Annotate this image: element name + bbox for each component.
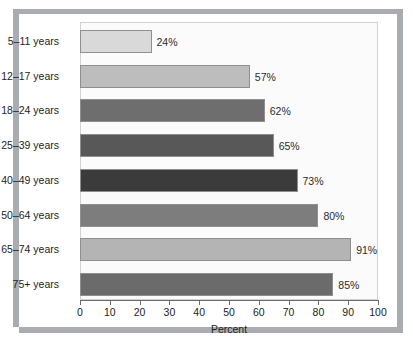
bar xyxy=(80,238,351,261)
category-label: 40–49 years xyxy=(1,169,59,192)
x-tick-label: 20 xyxy=(134,306,146,318)
bar-row: 57% xyxy=(80,65,378,88)
bar-row: 24% xyxy=(80,30,378,53)
bar-value-label: 73% xyxy=(298,175,324,187)
bar-value-label: 24% xyxy=(152,36,178,48)
bar-row: 91% xyxy=(80,238,378,261)
frame-shadow-right xyxy=(397,14,403,332)
x-tick-label: 90 xyxy=(342,306,354,318)
bar xyxy=(80,99,265,122)
x-tick-mark xyxy=(348,300,349,305)
bar xyxy=(80,30,152,53)
bar xyxy=(80,134,274,157)
x-tick-mark xyxy=(199,300,200,305)
x-tick-label: 40 xyxy=(193,306,205,318)
x-tick-mark xyxy=(229,300,230,305)
category-label: 65–74 years xyxy=(1,238,59,261)
bar xyxy=(80,204,318,227)
x-tick-label: 0 xyxy=(77,306,83,318)
bar xyxy=(80,65,250,88)
x-tick-label: 70 xyxy=(283,306,295,318)
category-label: 12–17 years xyxy=(1,65,59,88)
category-label: 50–64 years xyxy=(1,204,59,227)
x-tick-mark xyxy=(140,300,141,305)
bar-value-label: 57% xyxy=(250,71,276,83)
bar-row: 62% xyxy=(80,99,378,122)
bar-row: 65% xyxy=(80,134,378,157)
bar-value-label: 91% xyxy=(351,244,377,256)
x-tick-mark xyxy=(259,300,260,305)
x-tick-label: 10 xyxy=(104,306,116,318)
x-tick-label: 50 xyxy=(223,306,235,318)
x-tick-label: 60 xyxy=(253,306,265,318)
x-tick-label: 80 xyxy=(313,306,325,318)
bar-row: 73% xyxy=(80,169,378,192)
bar-value-label: 85% xyxy=(333,279,359,291)
x-tick-mark xyxy=(80,300,81,305)
x-tick-mark xyxy=(289,300,290,305)
x-tick-label: 100 xyxy=(369,306,387,318)
bar-row: 80% xyxy=(80,204,378,227)
x-tick-mark xyxy=(169,300,170,305)
category-label: 18–24 years xyxy=(1,99,59,122)
category-label: 75+ years xyxy=(13,273,59,296)
x-tick-mark xyxy=(318,300,319,305)
bar-value-label: 65% xyxy=(274,140,300,152)
bar-value-label: 62% xyxy=(265,105,291,117)
figure-panel: 24%57%62%65%73%80%91%85% 5–11 years12–17… xyxy=(19,14,397,327)
x-tick-mark xyxy=(110,300,111,305)
x-tick-mark xyxy=(378,300,379,305)
category-label: 25–39 years xyxy=(1,134,59,157)
category-label: 5–11 years xyxy=(8,30,59,53)
bar xyxy=(80,273,333,296)
figure-frame: 24%57%62%65%73%80%91%85% 5–11 years12–17… xyxy=(0,0,413,350)
x-tick-label: 30 xyxy=(164,306,176,318)
bar-value-label: 80% xyxy=(318,210,344,222)
x-axis-title: Percent xyxy=(80,323,378,335)
bar-row: 85% xyxy=(80,273,378,296)
bar xyxy=(80,169,298,192)
